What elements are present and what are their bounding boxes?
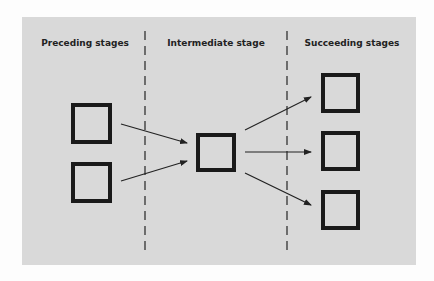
stage-box-preceding-2 — [73, 164, 110, 201]
stage-box-succeeding-2 — [323, 133, 358, 169]
stage-box-intermediate — [198, 135, 234, 170]
flow-arrow — [121, 124, 187, 143]
flow-arrow — [121, 161, 187, 181]
stage-box-succeeding-1 — [323, 75, 358, 111]
stage-box-preceding-1 — [73, 105, 110, 142]
flow-arrow — [245, 173, 311, 205]
flow-arrow — [245, 97, 311, 130]
stage-box-succeeding-3 — [323, 192, 358, 228]
diagram-canvas — [0, 0, 434, 281]
